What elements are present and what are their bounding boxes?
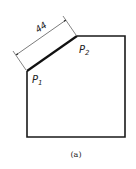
- diagram-canvas: 44 P1 P2 (a): [0, 0, 136, 169]
- point-label-p2: P2: [79, 44, 90, 57]
- figure-caption: (a): [70, 150, 81, 159]
- point-label-p1: P1: [32, 74, 43, 87]
- extension-line-p1: [13, 51, 26, 70]
- dimension-label: 44: [33, 20, 48, 35]
- chamfer-edge: [27, 36, 77, 71]
- extension-line-p2: [63, 16, 76, 35]
